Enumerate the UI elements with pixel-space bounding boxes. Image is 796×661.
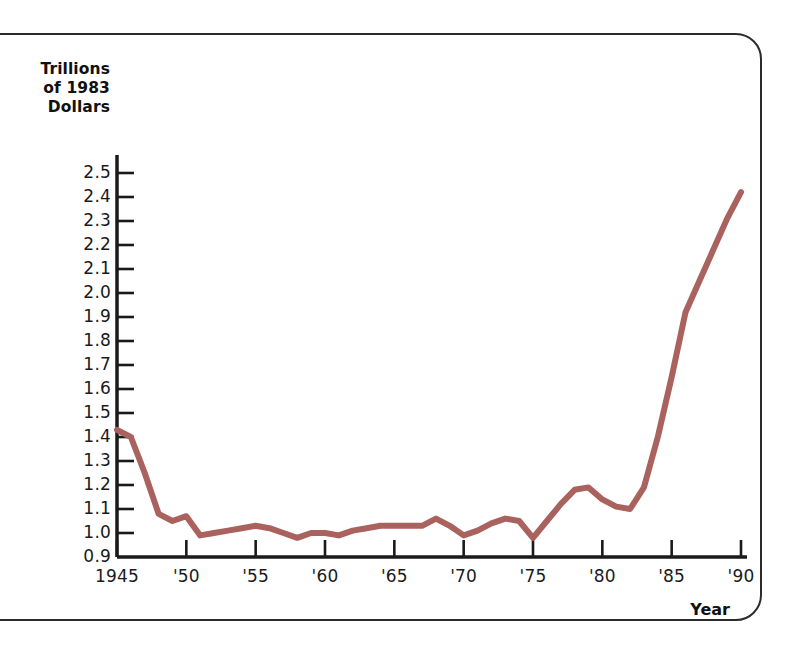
x-tick-label: '55: [226, 566, 286, 586]
x-tick-label: '90: [711, 566, 771, 586]
y-tick-label: 2.0: [55, 282, 111, 302]
y-tick-label: 1.0: [55, 522, 111, 542]
data-series-line: [117, 192, 741, 538]
y-tick-label: 1.1: [55, 498, 111, 518]
x-tick-label: '85: [642, 566, 702, 586]
y-tick-label: 1.4: [55, 426, 111, 446]
y-tick-label: 2.1: [55, 258, 111, 278]
y-tick-label: 2.5: [55, 162, 111, 182]
y-tick-label: 1.9: [55, 306, 111, 326]
y-tick-label: 1.3: [55, 450, 111, 470]
x-tick-label: 1945: [87, 566, 147, 586]
x-tick-label: '60: [295, 566, 355, 586]
line-chart-plot: [0, 0, 796, 661]
x-tick-label: '65: [364, 566, 424, 586]
y-tick-label: 1.6: [55, 378, 111, 398]
y-tick-label: 1.8: [55, 330, 111, 350]
x-tick-label: '50: [156, 566, 216, 586]
y-tick-label: 1.7: [55, 354, 111, 374]
y-tick-label: 0.9: [55, 546, 111, 566]
y-tick-label: 2.4: [55, 186, 111, 206]
x-tick-label: '80: [572, 566, 632, 586]
x-tick-label: '75: [503, 566, 563, 586]
figure-container: Trillions of 1983 Dollars 2.52.42.32.22.…: [0, 0, 796, 661]
y-tick-label: 2.2: [55, 234, 111, 254]
x-axis-title: Year: [690, 600, 730, 619]
y-tick-label: 1.2: [55, 474, 111, 494]
y-tick-label: 1.5: [55, 402, 111, 422]
x-tick-label: '70: [434, 566, 494, 586]
y-tick-label: 2.3: [55, 210, 111, 230]
